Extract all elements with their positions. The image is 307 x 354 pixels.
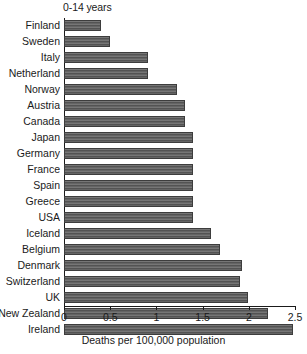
chart-title: 0-14 years [63, 1, 112, 14]
category-label: Iceland [26, 225, 60, 241]
bar [64, 244, 220, 255]
bar [64, 52, 148, 63]
bar-row: Finland [64, 18, 295, 34]
category-label: France [27, 161, 60, 177]
bar-row: Spain [64, 178, 295, 194]
bar [64, 164, 193, 175]
category-label: Finland [26, 17, 60, 33]
bar [64, 228, 211, 239]
x-tick-mark [156, 306, 157, 310]
bar-row: Canada [64, 114, 295, 130]
x-axis-ticks: 00.511.522.5 [64, 306, 296, 332]
bar-row: Japan [64, 130, 295, 146]
bar [64, 36, 110, 47]
category-label: Switzerland [6, 273, 60, 289]
bar-row: Iceland [64, 226, 295, 242]
x-tick-label: 0 [61, 311, 67, 324]
bar [64, 132, 193, 143]
x-tick-mark [203, 306, 204, 310]
bar [64, 116, 185, 127]
category-label: New Zealand [0, 305, 60, 321]
bar-row: Greece [64, 194, 295, 210]
category-label: Spain [33, 177, 60, 193]
category-label: Italy [41, 49, 60, 65]
bar [64, 148, 193, 159]
x-tick-mark [64, 306, 65, 310]
x-tick-mark [110, 306, 111, 310]
category-label: Germany [17, 145, 60, 161]
x-axis-title: Deaths per 100,000 population [0, 334, 307, 347]
category-label: Norway [24, 81, 60, 97]
bar [64, 276, 240, 287]
bar-row: Belgium [64, 242, 295, 258]
category-label: Canada [23, 113, 60, 129]
x-tick-label: 0.5 [103, 311, 118, 324]
x-tick-label: 1 [153, 311, 159, 324]
bar [64, 260, 242, 271]
category-label: Belgium [22, 241, 60, 257]
bar-row: France [64, 162, 295, 178]
category-label: Denmark [17, 257, 60, 273]
plot-area: FinlandSwedenItalyNetherlandNorwayAustri… [64, 18, 295, 306]
bar-row: USA [64, 210, 295, 226]
x-tick-label: 2 [246, 311, 252, 324]
x-tick-label: 2.5 [288, 311, 303, 324]
category-label: UK [45, 289, 60, 305]
bar-row: UK [64, 290, 295, 306]
bar-row: Germany [64, 146, 295, 162]
bar [64, 20, 101, 31]
category-label: Japan [31, 129, 60, 145]
bar-row: Italy [64, 50, 295, 66]
bar [64, 292, 248, 303]
bar [64, 196, 193, 207]
category-label: USA [38, 209, 60, 225]
bar-rows: FinlandSwedenItalyNetherlandNorwayAustri… [64, 18, 295, 306]
bar [64, 100, 185, 111]
bar-row: Norway [64, 82, 295, 98]
category-label: Greece [26, 193, 60, 209]
bar-row: Denmark [64, 258, 295, 274]
category-label: Austria [27, 97, 60, 113]
bar-row: Netherland [64, 66, 295, 82]
category-label: Netherland [9, 65, 60, 81]
bar-row: Sweden [64, 34, 295, 50]
x-tick-mark [295, 306, 296, 310]
bar-row: Austria [64, 98, 295, 114]
x-tick-label: 1.5 [195, 311, 210, 324]
x-tick-mark [249, 306, 250, 310]
bar [64, 68, 148, 79]
bar-chart: 0-14 years FinlandSwedenItalyNetherlandN… [0, 0, 307, 354]
bar [64, 180, 193, 191]
bar-row: Switzerland [64, 274, 295, 290]
bar [64, 84, 177, 95]
category-label: Sweden [22, 33, 60, 49]
bar [64, 212, 193, 223]
